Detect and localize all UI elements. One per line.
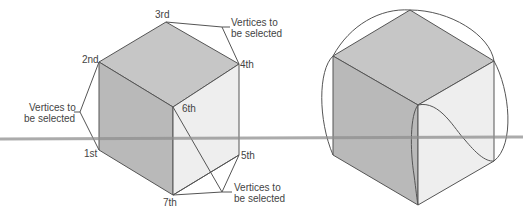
vertex-label-1st: 1st [84, 148, 98, 159]
vertex-label-3rd: 3rd [155, 9, 169, 20]
callout-bottom-right-line2: be selected [234, 193, 285, 204]
vertex-label-6th: 6th [182, 103, 196, 114]
callout-top-right-line2: be selected [231, 28, 282, 39]
vertex-label-5th: 5th [241, 150, 255, 161]
left-cube [99, 22, 239, 195]
callout-left-line1: Vertices to [29, 102, 76, 113]
diagram-canvas: 3rd 2nd 4th 6th 1st 5th 7th Vertices to … [0, 0, 523, 216]
right-cube [322, 10, 508, 205]
callout-left-line2: be selected [24, 113, 75, 124]
callout-top-right-line1: Vertices to [231, 17, 278, 28]
vertex-label-4th: 4th [240, 59, 254, 70]
horizon-line [0, 137, 523, 139]
vertex-label-2nd: 2nd [82, 54, 99, 65]
vertex-label-7th: 7th [163, 197, 177, 208]
callout-bottom-right-line1: Vertices to [234, 182, 281, 193]
